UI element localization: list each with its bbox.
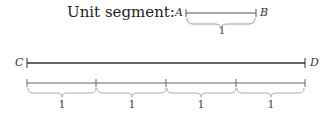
divided-segment bbox=[27, 79, 305, 87]
segment-diagram bbox=[0, 0, 328, 118]
division-braces bbox=[28, 88, 304, 97]
unit-segment bbox=[186, 9, 256, 29]
segment-cd bbox=[27, 58, 305, 68]
